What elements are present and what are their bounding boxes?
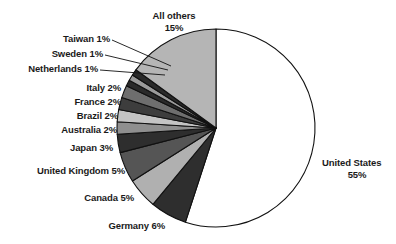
slice-label-netherlands: Netherlands 1%	[0, 63, 98, 75]
slice-label-sweden: Sweden 1%	[0, 48, 103, 60]
slice-label-united-states-name: United States	[322, 157, 381, 168]
pie-chart-figure: All others 15% Taiwan 1% Sweden 1% Nethe…	[0, 0, 396, 244]
slice-label-brazil: Brazil 2%	[0, 110, 118, 122]
pie-slice-group	[117, 29, 315, 227]
slice-label-taiwan: Taiwan 1%	[0, 33, 110, 45]
slice-label-all-others: All others 15%	[132, 10, 216, 33]
slice-label-united-states: United States 55%	[322, 157, 396, 180]
slice-label-japan: Japan 3%	[0, 142, 113, 154]
slice-label-germany: Germany 6%	[0, 220, 165, 232]
slice-label-united-kingdom: United Kingdom 5%	[0, 165, 125, 177]
slice-label-all-others-name: All others	[153, 10, 196, 21]
slice-label-all-others-value: 15%	[165, 22, 184, 33]
slice-label-canada: Canada 5%	[0, 192, 134, 204]
slice-label-italy: Italy 2%	[0, 82, 121, 94]
slice-label-australia: Australia 2%	[0, 124, 117, 136]
slice-label-france: France 2%	[0, 96, 121, 108]
slice-label-united-states-value: 55%	[322, 169, 392, 181]
